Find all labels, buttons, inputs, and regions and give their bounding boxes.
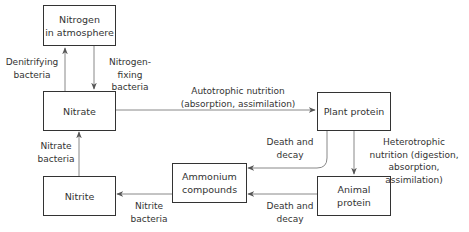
- node-nitrogen-atmosphere: Nitrogen in atmosphere: [43, 5, 116, 46]
- node-plant-protein: Plant protein: [317, 92, 391, 131]
- label-nitrate-bacteria: Nitrate bacteria: [36, 140, 76, 165]
- node-nitrate: Nitrate: [43, 91, 116, 131]
- label-death-decay-plant: Death and decay: [262, 136, 318, 161]
- label-nitrogen-fixing-bacteria: Nitrogen-fixing bacteria: [97, 56, 163, 94]
- node-nitrite: Nitrite: [43, 176, 116, 216]
- label-death-decay-animal: Death and decay: [262, 200, 318, 225]
- label-heterotrophic-nutrition: Heterotrophic nutrition (digestion, abso…: [360, 136, 468, 186]
- node-ammonium-compounds: Ammonium compounds: [172, 163, 247, 203]
- label-nitrite-bacteria: Nitrite bacteria: [129, 200, 169, 225]
- label-denitrifying-bacteria: Denitrifying bacteria: [4, 56, 60, 81]
- label-autotrophic-nutrition: Autotrophic nutrition (absorption, assim…: [178, 85, 298, 110]
